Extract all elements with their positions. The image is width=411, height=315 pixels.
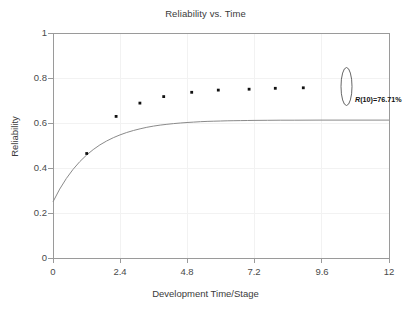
reliability-callout-label: R(10)=76.71% (355, 95, 402, 104)
chart-root: Reliability vs. Time Reliability Develop… (0, 0, 411, 315)
data-point (274, 87, 277, 90)
grid-lines (53, 33, 389, 258)
chart-canvas (0, 0, 411, 315)
data-point (85, 152, 88, 155)
axis-ticks (48, 33, 389, 263)
data-point (190, 91, 193, 94)
plot-frame (53, 33, 389, 258)
data-point (248, 88, 251, 91)
data-point (162, 95, 165, 98)
data-point (302, 86, 305, 89)
data-point (139, 102, 142, 105)
callout-ellipse (341, 68, 352, 106)
fitted-curve (53, 120, 389, 202)
data-point (115, 115, 118, 118)
callout-value: (10)=76.71% (360, 95, 401, 104)
data-point (217, 89, 220, 92)
